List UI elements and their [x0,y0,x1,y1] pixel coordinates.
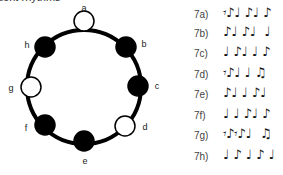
node-a-empty [74,11,94,31]
exercise-row: 7e) ♪♩ ♩ ♪♩ [194,84,283,103]
exercise-number: 7g) [194,130,208,141]
exercise-number: 7h) [194,151,208,162]
node-e-filled [74,131,94,151]
node-label: f [25,123,28,133]
exercise-number: 7e) [194,89,208,100]
exercise-row: 7c) ♩ ♪♩ ♩ ♪ [194,43,283,62]
node-h-filled [35,37,55,57]
node-label: g [8,83,13,93]
exercise-row: 7h) ♩ ♪ ♩ ♪ ♩ [194,146,283,165]
node-g-empty [21,77,41,97]
exercise-row: 7d) 𝄾♪♩ ♩ ♫ [194,64,283,83]
rhythm-notation: 𝄾♪♩ ♩ ♫ [223,65,266,81]
rhythm-notation: ♩ ♪ ♩ ♪ ♩ [223,147,275,162]
node-label: h [24,40,29,50]
node-label: e [82,156,87,166]
node-label: a [81,3,86,13]
rhythm-notation: ♪♩ ♩ ♪♩ [223,85,266,100]
exercise-number: 7b) [194,28,208,39]
node-d-empty [115,116,135,136]
exercise-row: 7b) ♪♩ ♪♩ ♩ [194,23,283,42]
exercise-number: 7f) [194,110,206,121]
exercise-row: 7a) 𝄾♪♩ ♪♩ ♪ [194,4,283,23]
node-c-filled [128,76,148,96]
rhythm-notation: 𝄾♪♩ ♪♩ ♪ [223,5,271,21]
node-label: c [155,81,160,91]
exercise-number: 7d) [194,69,208,80]
rhythm-notation: ♪♩ ♪♩ ♩ [223,24,270,39]
node-label: d [142,122,147,132]
exercise-row: 7g) 𝄾♪𝄾♪♩ ♫ [194,125,283,144]
exercise-number: 7c) [194,48,208,59]
node-b-filled [116,37,136,57]
rhythm-necklace-diagram: abcdefgh [0,0,175,175]
rhythm-notation: ♩ ♪♩ ♩ ♪ [223,44,270,59]
rhythm-notation: 𝄾♪𝄾♪♩ ♫ [223,126,272,142]
exercise-row: 7f) ♩ ♩ ♪♩ ♪ [194,105,283,124]
rhythm-notation: ♩ ♩ ♪♩ ♪ [223,106,270,121]
node-f-filled [35,115,55,135]
node-label: b [141,39,146,49]
exercise-number: 7a) [194,9,208,20]
